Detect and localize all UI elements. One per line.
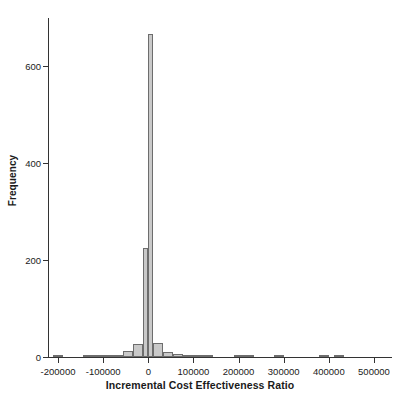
x-tick-500000: [374, 358, 375, 363]
histogram-bar: [123, 351, 133, 357]
x-tick-0: [148, 358, 149, 363]
x-tick-label-400000: 400000: [313, 366, 345, 377]
histogram-bar: [53, 355, 63, 357]
x-tick-label-500000: 500000: [358, 366, 390, 377]
x-axis-spine: [48, 357, 392, 358]
histogram-bar: [193, 355, 203, 357]
histogram-bar: [93, 355, 103, 357]
histogram-bar: [319, 355, 329, 357]
histogram-bar: [183, 355, 193, 357]
histogram-bar: [103, 355, 113, 357]
y-tick-label-600: 600: [25, 61, 41, 72]
x-tick--200000: [58, 358, 59, 363]
x-tick-label-0: 0: [146, 366, 151, 377]
x-tick-label-200000: 200000: [223, 366, 255, 377]
x-axis-title: Incremental Cost Effectiveness Ratio: [0, 379, 400, 391]
histogram-bar: [113, 355, 123, 357]
histogram-bar: [244, 355, 254, 357]
x-tick-label-100000: 100000: [178, 366, 210, 377]
histogram-bars: [48, 18, 392, 357]
x-tick-label--100000: -100000: [86, 366, 121, 377]
histogram-bar: [133, 344, 143, 357]
plot-area: 0200400600 -200000-100000010000020000030…: [48, 18, 392, 357]
histogram-bar: [153, 343, 163, 357]
y-tick-0: [43, 357, 48, 358]
y-tick-label-0: 0: [36, 352, 41, 363]
histogram-bar: [334, 355, 344, 357]
histogram-bar: [83, 355, 93, 357]
x-tick-label-300000: 300000: [268, 366, 300, 377]
histogram-bar: [148, 34, 153, 358]
y-axis-title-text: Frequency: [8, 154, 19, 205]
x-tick-label--200000: -200000: [41, 366, 76, 377]
histogram-bar: [203, 355, 213, 357]
x-tick-200000: [239, 358, 240, 363]
histogram-figure: Frequency 0200400600 -200000-10000001000…: [0, 0, 400, 402]
x-tick--100000: [103, 358, 104, 363]
histogram-bar: [234, 355, 244, 357]
histogram-bar: [274, 355, 284, 357]
x-tick-300000: [284, 358, 285, 363]
y-axis-title: Frequency: [4, 0, 22, 360]
x-tick-400000: [329, 358, 330, 363]
y-tick-label-200: 200: [25, 255, 41, 266]
histogram-bar: [173, 354, 183, 357]
y-tick-label-400: 400: [25, 158, 41, 169]
histogram-bar: [163, 352, 173, 357]
x-axis-title-text: Incremental Cost Effectiveness Ratio: [106, 379, 295, 391]
x-tick-100000: [193, 358, 194, 363]
